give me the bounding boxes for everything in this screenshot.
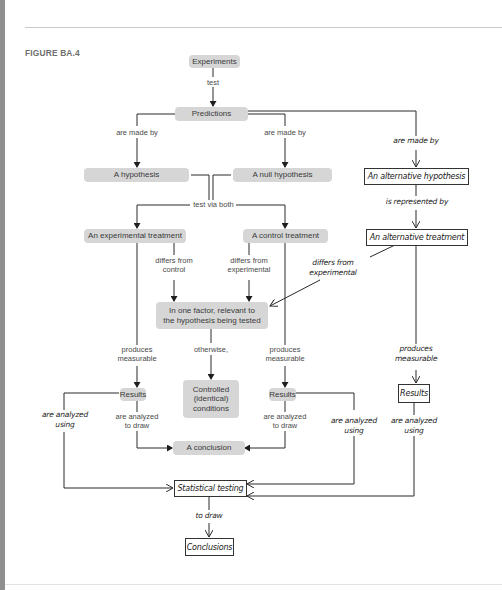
node-alt-hypothesis: An alternative hypothesis [364, 168, 469, 185]
label-produces-left-line2: measurable [115, 354, 159, 363]
node-conclusion: A conclusion [173, 441, 245, 455]
label-produces-right-line2: measurable [395, 354, 437, 364]
node-conclusions: Conclusions [185, 538, 234, 556]
node-experiments: Experiments [189, 55, 240, 68]
label-differs-alt-line2: experimental [308, 268, 358, 278]
label-analyzed-using-right-line1: are analyzed [389, 416, 439, 426]
node-experimental-treatment: An experimental treatment [84, 229, 186, 243]
label-test: test [203, 78, 223, 87]
node-controlled-conditions: Controlled (identical) conditions [183, 380, 239, 418]
node-null-hypothesis: A null hypothesis [233, 168, 332, 182]
label-differs-alt-line1: differs from [308, 258, 358, 268]
label-to-draw: to draw [193, 511, 225, 521]
label-differs-from-control: differs from control [149, 256, 199, 275]
node-results-left: Results [120, 388, 146, 401]
label-produces-mid-line1: produces [263, 345, 307, 354]
label-is-represented-by: is represented by [382, 197, 452, 207]
label-analyzed-draw-left-line2: to draw [113, 421, 161, 430]
label-test-via-both: test via both [191, 200, 236, 209]
node-controlled-line3: conditions [193, 404, 229, 414]
label-analyzed-using-left: are analyzed using [40, 410, 90, 430]
label-analyzed-draw-left: are analyzed to draw [113, 412, 161, 431]
label-analyzed-using-left-line1: are analyzed [40, 410, 90, 420]
node-statistical-testing: Statistical testing [174, 480, 247, 497]
label-analyzed-using-mid-line1: are analyzed [329, 416, 379, 426]
label-analyzed-draw-mid-line2: to draw [261, 421, 309, 430]
label-produces-right: produces measurable [395, 344, 437, 364]
label-differs-exp-line1: differs from [224, 256, 274, 265]
node-one-factor-line1: In one factor, relevant to [169, 306, 255, 316]
node-control-treatment: A control treatment [243, 229, 328, 243]
node-results-mid: Results [269, 388, 296, 401]
label-differs-control-line1: differs from [149, 256, 199, 265]
node-predictions: Predictions [175, 107, 248, 121]
label-analyzed-using-mid-line2: using [329, 426, 379, 436]
label-differs-from-experimental: differs from experimental [224, 256, 274, 275]
node-hypothesis: A hypothesis [84, 168, 189, 182]
label-differs-control-line2: control [149, 265, 199, 274]
label-analyzed-draw-left-line1: are analyzed [113, 412, 161, 421]
label-analyzed-using-mid: are analyzed using [329, 416, 379, 436]
connector-lines [0, 0, 502, 590]
node-results-right: Results [398, 384, 430, 403]
label-produces-mid-line2: measurable [263, 354, 307, 363]
node-alt-treatment: An alternative treatment [366, 229, 468, 246]
label-analyzed-using-right: are analyzed using [389, 416, 439, 436]
node-controlled-line1: Controlled [193, 385, 229, 395]
label-differs-from-experimental-alt: differs from experimental [308, 258, 358, 278]
label-produces-left-line1: produces [115, 345, 159, 354]
label-analyzed-draw-mid: are analyzed to draw [261, 412, 309, 431]
label-analyzed-draw-mid-line1: are analyzed [261, 412, 309, 421]
label-made-by-mid: are made by [260, 128, 310, 137]
label-produces-left: produces measurable [115, 345, 159, 364]
label-analyzed-using-right-line2: using [389, 426, 439, 436]
label-made-by-left: are made by [112, 128, 162, 137]
node-one-factor: In one factor, relevant to the hypothesi… [156, 302, 268, 329]
node-one-factor-line2: the hypothesis being tested [163, 316, 260, 326]
node-controlled-line2: (identical) [194, 394, 229, 404]
label-made-by-right: are made by [388, 136, 444, 146]
label-analyzed-using-left-line2: using [40, 420, 90, 430]
label-produces-right-line1: produces [395, 344, 437, 354]
label-differs-exp-line2: experimental [224, 265, 274, 274]
label-otherwise: otherwise, [191, 345, 231, 354]
label-produces-mid: produces measurable [263, 345, 307, 364]
